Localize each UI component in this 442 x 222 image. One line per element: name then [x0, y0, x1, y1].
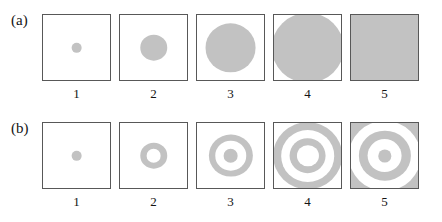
- panel-caption-a-5: 5: [350, 86, 419, 102]
- panel-a-1-content: [43, 15, 110, 80]
- figure-row-a: (a) 1 2 3 4: [0, 0, 442, 108]
- panel-b-3: [196, 122, 265, 189]
- disk-a-4: [274, 15, 341, 80]
- panel-a-3: [196, 14, 265, 81]
- ring-b-2-core: [146, 148, 161, 162]
- panel-a-5: [350, 14, 419, 81]
- panel-b-1: [42, 122, 111, 189]
- panel-caption-a-3: 3: [196, 86, 265, 102]
- panel-b-3-content: [197, 123, 264, 188]
- panel-a-2: [119, 14, 188, 81]
- panel-caption-a-1: 1: [42, 86, 111, 102]
- panel-b-1-content: [43, 123, 110, 188]
- panel-a-1: [42, 14, 111, 81]
- disk-a-1: [71, 42, 82, 52]
- panel-b-5-content: [351, 123, 418, 188]
- filled-square-a-5: [351, 15, 418, 80]
- panel-a-4: [273, 14, 342, 81]
- figure-row-b: (b) 1 2 3: [0, 108, 442, 222]
- panel-b-4-content: [274, 123, 341, 188]
- panel-caption-b-5: 5: [350, 194, 419, 210]
- panel-a-4-content: [274, 15, 341, 80]
- panel-a-2-content: [120, 15, 187, 80]
- figure-panel-grid: (a) 1 2 3 4: [0, 0, 442, 222]
- panel-b-4: [273, 122, 342, 189]
- ring-b-3-core: [223, 148, 238, 162]
- panel-a-5-content: [351, 15, 418, 80]
- disk-a-2: [140, 34, 167, 61]
- panel-caption-a-2: 2: [119, 86, 188, 102]
- panel-caption-b-1: 1: [42, 194, 111, 210]
- panel-caption-b-3: 3: [196, 194, 265, 210]
- panel-caption-b-2: 2: [119, 194, 188, 210]
- disk-b-1: [71, 150, 82, 160]
- row-label-b: (b): [11, 120, 29, 137]
- panel-b-5: [350, 122, 419, 189]
- panel-b-2-content: [120, 123, 187, 188]
- panel-caption-b-4: 4: [273, 194, 342, 210]
- panel-b-2: [119, 122, 188, 189]
- panel-caption-a-4: 4: [273, 86, 342, 102]
- row-label-a: (a): [11, 12, 28, 29]
- panel-a-3-content: [197, 15, 264, 80]
- disk-a-3: [205, 23, 256, 72]
